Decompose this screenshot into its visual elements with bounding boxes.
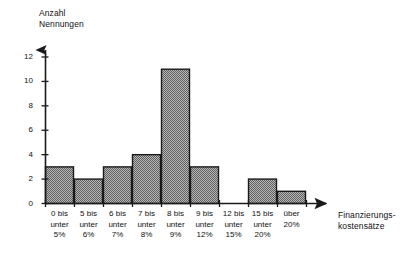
bar xyxy=(75,179,103,203)
y-tick-label: 2 xyxy=(15,175,33,183)
y-tick-label: 4 xyxy=(15,151,33,159)
y-tick-label: 8 xyxy=(15,102,33,110)
bar xyxy=(104,167,132,204)
bar xyxy=(278,191,306,203)
y-tick-label: 6 xyxy=(15,126,33,134)
x-category-label: über 20% xyxy=(275,209,309,230)
bar xyxy=(162,69,190,203)
bar xyxy=(46,167,74,204)
bar xyxy=(191,167,219,204)
histogram-chart: Anzahl Nennungen Finanzierungs- kostensä… xyxy=(0,0,405,263)
bar xyxy=(133,155,161,204)
y-tick-label: 12 xyxy=(15,53,33,61)
y-tick-label: 0 xyxy=(15,200,33,208)
y-tick-label: 10 xyxy=(15,77,33,85)
bar xyxy=(249,179,277,203)
bars-group xyxy=(46,69,306,203)
